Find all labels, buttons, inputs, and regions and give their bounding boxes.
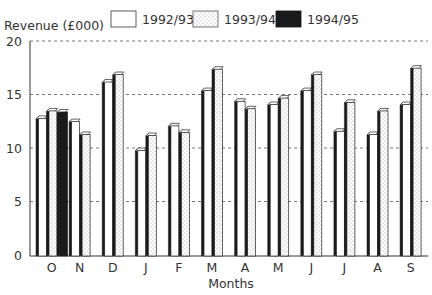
bar-1992-93-M [202,88,213,256]
x-tick-label: J [342,260,347,275]
bar-1993-94-J [146,133,157,256]
y-tick-label: 5 [14,194,22,209]
bar-1992-93-N [69,119,80,256]
bar-1993-94-J [311,72,322,256]
bar-1993-94-M [278,96,289,256]
bar-1993-94-A [245,106,256,256]
legend-swatch-dotted [193,11,218,27]
bar-1992-93-D [102,80,113,256]
legend-item-1994-95: 1994/95 [276,11,359,27]
x-tick-label: O [47,260,57,275]
bar-1993-94-N [80,132,91,256]
bar-1993-94-J [344,100,355,256]
y-axis-title: Revenue (£000) [4,18,104,33]
legend-item-1992-93: 1992/93 [111,11,194,27]
x-axis-title: Months [208,276,254,291]
bar-1993-94-O [47,108,58,256]
bar-1993-94-M [212,67,223,256]
y-tick-label: 0 [14,248,22,263]
bar-1992-93-F [168,123,179,256]
bar-1992-93-J [135,148,146,256]
x-tick-label: N [75,260,84,275]
legend-swatch-white [111,11,136,27]
x-tick-label: F [175,260,182,275]
legend: 1992/93 1993/94 1994/95 [111,11,359,27]
bar-1993-94-F [179,130,190,256]
chart-canvas: Revenue (£000) 1992/93 1993/94 1994/95 0… [0,0,432,295]
y-tick-label: 10 [6,141,22,156]
legend-label: 1993/94 [224,12,276,27]
bar-1992-93-S [400,102,411,256]
x-tick-label: M [273,260,284,275]
x-tick-label: A [373,260,382,275]
x-tick-label: M [207,260,218,275]
x-tick-label: J [143,260,148,275]
bar-1993-94-D [113,72,124,256]
x-tick-label: S [407,260,415,275]
x-tick-label: A [241,260,250,275]
legend-item-1993-94: 1993/94 [193,11,276,27]
y-tick-label: 15 [6,87,22,102]
x-axis-ticks: ONDJFMAMJJAS [47,260,415,275]
bar-1992-93-O [36,116,47,256]
bar-1992-93-A [367,132,378,256]
bar-1992-93-J [301,88,312,256]
y-tick-label: 20 [6,34,22,49]
revenue-bar-chart: Revenue (£000) 1992/93 1993/94 1994/95 0… [0,0,432,295]
legend-label: 1994/95 [307,12,359,27]
bar-1992-93-A [235,99,246,256]
x-tick-label: J [308,260,313,275]
legend-label: 1992/93 [142,12,194,27]
bar-1994-95-O [57,109,68,256]
bar-1993-94-S [411,66,422,256]
x-tick-label: D [108,260,118,275]
legend-swatch-black [276,11,301,27]
y-axis-ticks: 05101520 [6,34,22,263]
bar-1992-93-M [268,102,279,256]
bar-1992-93-J [334,129,345,256]
bar-1993-94-A [378,108,389,256]
